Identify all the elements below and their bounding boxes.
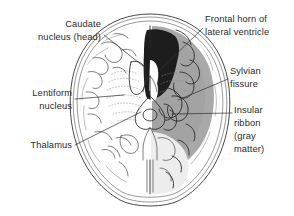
brain-interior — [70, 14, 230, 204]
label-lentiform-nucleus-line-1: Lentiform — [32, 88, 72, 98]
label-thalamus: Thalamus — [30, 140, 72, 150]
label-sylvian-fissure-line-2: fissure — [230, 79, 258, 89]
label-frontal-horn-line-2: lateral ventricle — [205, 27, 269, 37]
label-frontal-horn-line-1: Frontal horn of — [205, 14, 267, 24]
label-insular-ribbon-line-3: (gray — [234, 131, 256, 141]
label-sylvian-fissure-line-1: Sylvian — [230, 66, 261, 76]
label-insular-ribbon-line-1: Insular — [234, 105, 263, 115]
label-sylvian-fissure: Sylvian fissure — [230, 66, 261, 89]
label-insular-ribbon-line-2: ribbon — [234, 118, 260, 128]
label-insular-ribbon: Insular ribbon (gray matter) — [234, 105, 264, 154]
label-caudate-nucleus-line-2: nucleus (head) — [38, 32, 101, 42]
label-caudate-nucleus-line-1: Caudate — [65, 19, 101, 29]
label-caudate-nucleus: Caudate nucleus (head) — [38, 19, 101, 42]
label-lentiform-nucleus-line-2: nucleus — [39, 101, 72, 111]
brain-diagram-figure: Caudate nucleus (head) Frontal horn of l… — [0, 0, 294, 216]
label-thalamus-line-1: Thalamus — [30, 140, 72, 150]
label-frontal-horn: Frontal horn of lateral ventricle — [205, 14, 269, 37]
label-lentiform-nucleus: Lentiform nucleus — [32, 88, 72, 111]
label-insular-ribbon-line-4: matter) — [234, 144, 264, 154]
brain-diagram-svg: Caudate nucleus (head) Frontal horn of l… — [0, 0, 294, 216]
